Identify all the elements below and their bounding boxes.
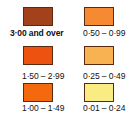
swatch-0-50-to-0-99 — [84, 7, 114, 26]
legend-label: 3·00 and over — [10, 28, 64, 38]
legend-label: 1·50 – 2·99 — [22, 71, 64, 81]
swatch-0-01-to-0-24 — [84, 83, 114, 102]
legend-label: 1·00 – 1·49 — [22, 103, 64, 113]
legend-label: 0·50 – 0·99 — [83, 28, 125, 38]
swatch-1-50-to-2-99 — [23, 46, 53, 65]
swatch-3-00-and-over — [23, 7, 53, 26]
swatch-0-25-to-0-49 — [84, 46, 114, 65]
legend-label: 0·01 – 0·24 — [83, 103, 125, 113]
legend-label: 0·25 – 0·49 — [83, 71, 125, 81]
swatch-1-00-to-1-49 — [23, 83, 53, 102]
